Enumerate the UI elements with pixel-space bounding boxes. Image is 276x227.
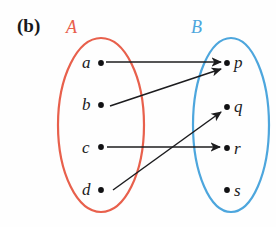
element-label-b: b — [82, 95, 91, 115]
element-dot-q — [224, 104, 230, 110]
element-label-d: d — [82, 180, 91, 200]
set-b-ellipse — [193, 38, 269, 212]
arrow-diagram-figure: (b) A B a b c d p q r s — [0, 0, 276, 227]
element-dots-group — [98, 60, 230, 193]
element-dot-c — [98, 144, 104, 150]
set-a-name-label: A — [66, 17, 77, 38]
element-label-c: c — [82, 138, 90, 158]
mapping-arrow-d-to-q — [113, 112, 221, 190]
mapping-arrow-b-to-p — [110, 69, 221, 106]
element-dot-b — [98, 102, 104, 108]
element-dot-p — [224, 60, 230, 66]
element-dot-s — [224, 187, 230, 193]
element-label-r: r — [234, 139, 241, 159]
element-dot-r — [224, 145, 230, 151]
mapping-arrows-group — [106, 62, 221, 190]
element-dot-d — [98, 187, 104, 193]
part-label: (b) — [17, 15, 40, 37]
element-label-q: q — [234, 97, 243, 117]
set-b-name-label: B — [191, 17, 202, 38]
element-dot-a — [98, 60, 104, 66]
element-label-s: s — [234, 181, 241, 201]
element-label-p: p — [234, 53, 243, 73]
element-label-a: a — [82, 53, 91, 73]
